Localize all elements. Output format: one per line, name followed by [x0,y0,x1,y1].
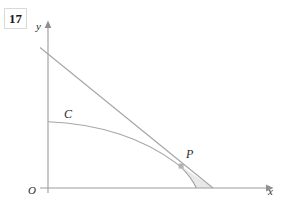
curve-c [48,122,196,188]
question-number: 17 [9,12,22,25]
geometry-figure [0,0,294,215]
y-axis-arrow-icon [45,21,52,29]
point-p-label: P [186,148,193,160]
y-axis-label: y [36,21,41,32]
point-p-marker [179,164,184,169]
question-number-box: 17 [4,8,27,29]
figure-container: 17 y x O C P [0,0,294,215]
curve-label: C [64,108,72,120]
origin-label: O [28,185,36,196]
x-axis-label: x [268,186,273,197]
